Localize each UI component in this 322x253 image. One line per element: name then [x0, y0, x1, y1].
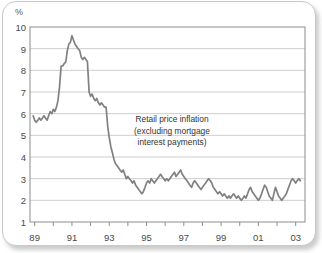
- series-annotation-label: Retail price inflation(excluding mortgag…: [113, 114, 231, 149]
- x-axis-tick-label: 01: [245, 232, 271, 243]
- figure-container: % 12345678910 8991939597990103 Retail pr…: [0, 0, 322, 253]
- annotation-line: Retail price inflation: [113, 114, 231, 126]
- x-axis-tick-label: 99: [208, 232, 234, 243]
- x-axis-tick-label: 95: [134, 232, 160, 243]
- x-axis-tick-label: 89: [22, 232, 48, 243]
- x-axis-tick-label: 91: [59, 232, 85, 243]
- x-axis-tick-label: 03: [283, 232, 309, 243]
- x-axis-ticks-group: [35, 222, 296, 226]
- x-axis-tick-label: 97: [171, 232, 197, 243]
- annotation-line: (excluding mortgage: [113, 126, 231, 138]
- annotation-line: interest payments): [113, 137, 231, 149]
- x-axis-tick-label: 93: [96, 232, 122, 243]
